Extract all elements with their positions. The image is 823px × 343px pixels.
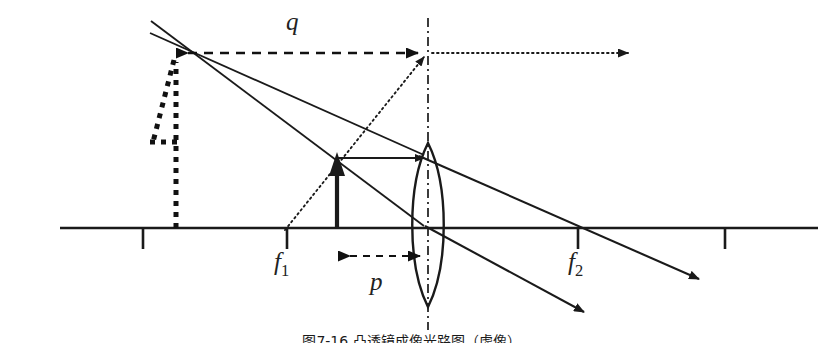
label-f2-base: f — [568, 248, 575, 275]
ray-diagram-canvas — [0, 0, 823, 343]
converging-lens — [412, 143, 444, 307]
object-arrow — [329, 152, 345, 228]
optics-figure: q p f1 f2 图7-16 凸透镜成像光路图（虚像） — [0, 0, 823, 343]
label-f2-subscript: 2 — [575, 261, 583, 280]
ray-through-focus-dotted — [285, 57, 424, 230]
virtual-image-arrow — [150, 60, 180, 228]
label-image-distance-q: q — [286, 8, 299, 36]
label-focal-point-f1: f1 — [274, 248, 289, 281]
label-f1-subscript: 1 — [281, 261, 289, 280]
figure-caption: 图7-16 凸透镜成像光路图（虚像） — [0, 330, 823, 343]
label-focal-point-f2: f2 — [568, 248, 583, 281]
virtual-ray-extension-lower — [151, 21, 424, 226]
refracted-ray-lower — [425, 226, 584, 312]
label-f1-base: f — [274, 248, 281, 275]
refracted-ray-upper — [419, 156, 699, 279]
label-object-distance-p: p — [370, 268, 383, 296]
